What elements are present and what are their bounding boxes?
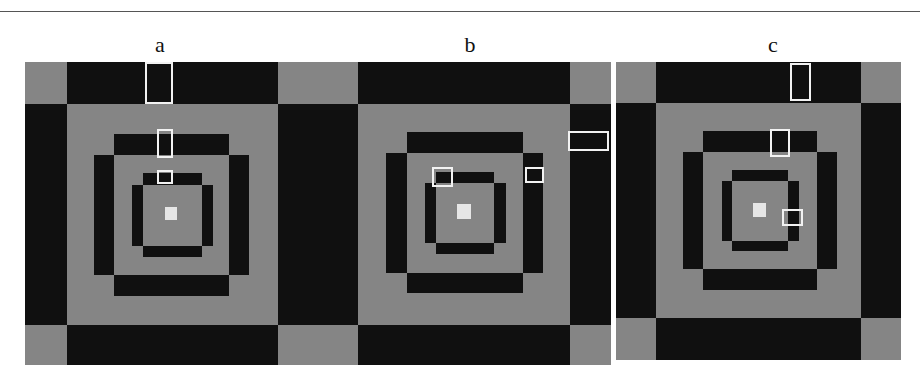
panel-c-outer-top-bar — [656, 62, 861, 103]
panel-c-ring2-right — [817, 152, 837, 269]
panel-c-ring2-top — [703, 131, 817, 152]
panel-c-ring3-top — [732, 170, 788, 181]
panel-b-highlight-box-2 — [525, 167, 544, 183]
panel-c-outer-left-bar — [616, 103, 656, 318]
panel-c-outer-bottom-bar — [656, 318, 861, 360]
panel-c-highlight-box-1 — [790, 63, 811, 101]
panel-a-highlight-box-2 — [157, 129, 173, 158]
panel-label-b: b — [465, 34, 476, 56]
panel-c-ring2-left — [683, 152, 703, 269]
panel-b-highlight-box-1 — [432, 167, 453, 187]
panel-b-ring3-right — [494, 183, 506, 243]
panel-label-c: c — [768, 34, 778, 56]
panel-c-ring3-bottom — [732, 241, 788, 251]
panel-c-outer-right-bar — [861, 103, 901, 318]
panel-a-ring2-right — [229, 155, 249, 275]
panel-c-highlight-box-3 — [782, 209, 803, 226]
panel-b-ring3-left — [425, 183, 436, 243]
panel-b-center-target — [457, 204, 471, 219]
panel-a-highlight-box-3 — [157, 170, 173, 184]
panel-a-outer-left-bar — [25, 104, 67, 325]
panel-a-ring3-left — [132, 185, 143, 246]
top-rule — [0, 11, 920, 12]
panel-b-ring2-bottom — [407, 273, 523, 293]
panel-a-outer-bottom-bar — [67, 325, 278, 365]
panel-a-ring3-bottom — [143, 246, 202, 257]
panel-b-ring2-top — [407, 132, 523, 153]
panel-a-ring2-bottom — [114, 275, 229, 296]
panel-a-highlight-box-1 — [145, 62, 173, 104]
panel-b-ring3-bottom — [436, 243, 494, 254]
panel-a-ring3-right — [202, 185, 213, 246]
panel-b-outer-bottom-bar — [358, 325, 570, 365]
panel-c-ring3-left — [722, 181, 732, 241]
panel-a-ring2-left — [94, 155, 114, 275]
panel-b-ring2-left — [386, 153, 407, 273]
panel-a-center-target — [165, 207, 177, 220]
panel-c-center-target — [753, 203, 766, 217]
panel-b-highlight-box-3 — [568, 131, 609, 151]
panel-label-a: a — [155, 34, 165, 56]
panel-c-ring2-bottom — [703, 269, 817, 290]
panel-ab-shared-column — [278, 104, 358, 325]
panel-c-highlight-box-2 — [770, 129, 790, 157]
panel-b-outer-top-bar — [358, 62, 570, 104]
